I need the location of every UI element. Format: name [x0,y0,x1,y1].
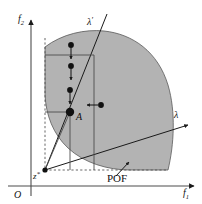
point-A [66,108,74,116]
figure-root: f2 f1 O λ′ λ A POF z* [0,0,202,204]
moving-point-3 [67,87,73,93]
feasible-objective-region [45,31,173,170]
f2-axis-label-subscript: 2 [21,19,25,26]
lambda-prime-label: λ′ [86,16,93,27]
f1-axis-label-subscript: 1 [186,193,189,200]
moving-point-2 [68,63,74,69]
point-a-label: A [75,111,83,122]
lambda-label: λ [173,109,179,120]
reference-point-z-star [42,167,47,172]
origin-label: O [14,189,21,200]
pof-label: POF [107,172,127,184]
diagram-canvas: f2 f1 O λ′ λ A POF z* [0,0,202,204]
moving-point-horizontal [98,102,104,108]
f1-axis-label: f1 [183,187,189,200]
star-glyph: * [37,170,41,178]
moving-point-1 [68,42,74,48]
reference-point-label: z* [32,170,41,181]
f2-axis-label: f2 [18,13,25,26]
prime-glyph: ′ [91,16,93,25]
